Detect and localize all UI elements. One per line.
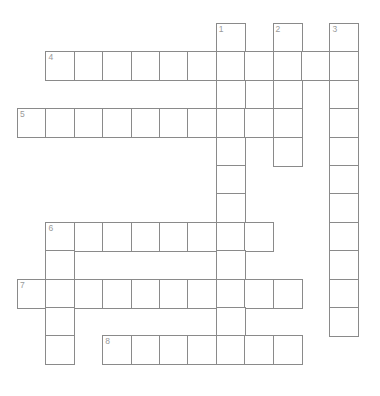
crossword-cell[interactable] [102, 279, 132, 309]
crossword-cell[interactable] [244, 335, 274, 365]
crossword-cell[interactable] [131, 335, 161, 365]
crossword-cell-numbered[interactable]: 6 [45, 222, 75, 252]
crossword-cell-numbered[interactable]: 1 [216, 23, 246, 53]
crossword-cell-numbered[interactable]: 7 [17, 279, 47, 309]
crossword-cell-numbered[interactable]: 2 [273, 23, 303, 53]
cell-number: 6 [48, 223, 53, 233]
crossword-cell[interactable] [74, 51, 104, 81]
crossword-cell[interactable] [329, 279, 359, 309]
crossword-cell[interactable] [187, 335, 217, 365]
cell-number: 4 [48, 52, 53, 62]
crossword-cell[interactable] [102, 51, 132, 81]
crossword-cell-numbered[interactable]: 5 [17, 108, 47, 138]
crossword-puzzle-grid: 12345678 [0, 0, 380, 396]
crossword-cell[interactable] [216, 137, 246, 167]
crossword-cell[interactable] [329, 80, 359, 110]
crossword-cell[interactable] [216, 165, 246, 195]
crossword-cell[interactable] [45, 279, 75, 309]
crossword-cell[interactable] [216, 335, 246, 365]
cell-number: 3 [332, 24, 337, 34]
crossword-cell[interactable] [216, 222, 246, 252]
crossword-cell[interactable] [74, 279, 104, 309]
crossword-cell[interactable] [244, 222, 274, 252]
cell-number: 7 [20, 280, 25, 290]
crossword-cell[interactable] [74, 222, 104, 252]
crossword-cell[interactable] [244, 108, 274, 138]
crossword-cell[interactable] [216, 51, 246, 81]
crossword-cell[interactable] [159, 108, 189, 138]
crossword-cell[interactable] [159, 51, 189, 81]
crossword-cell[interactable] [45, 335, 75, 365]
crossword-cell[interactable] [329, 137, 359, 167]
crossword-cell[interactable] [187, 222, 217, 252]
crossword-cell[interactable] [216, 108, 246, 138]
crossword-cell-numbered[interactable]: 4 [45, 51, 75, 81]
crossword-cell[interactable] [329, 108, 359, 138]
crossword-cell[interactable] [45, 250, 75, 280]
crossword-cell[interactable] [329, 165, 359, 195]
crossword-cell[interactable] [273, 51, 303, 81]
crossword-cell[interactable] [159, 222, 189, 252]
crossword-cell[interactable] [131, 51, 161, 81]
crossword-cell[interactable] [329, 51, 359, 81]
crossword-cell[interactable] [329, 307, 359, 337]
crossword-cell[interactable] [187, 108, 217, 138]
crossword-cell[interactable] [74, 108, 104, 138]
crossword-cell[interactable] [244, 51, 274, 81]
crossword-cell[interactable] [273, 137, 303, 167]
crossword-cell[interactable] [329, 250, 359, 280]
crossword-cell[interactable] [131, 222, 161, 252]
cell-number: 5 [20, 109, 25, 119]
crossword-cell[interactable] [187, 51, 217, 81]
cell-number: 1 [219, 24, 224, 34]
crossword-cell[interactable] [187, 279, 217, 309]
crossword-cell[interactable] [131, 279, 161, 309]
crossword-cell[interactable] [102, 222, 132, 252]
crossword-cell[interactable] [131, 108, 161, 138]
crossword-cell[interactable] [273, 279, 303, 309]
crossword-cell[interactable] [301, 51, 331, 81]
crossword-cell[interactable] [216, 80, 246, 110]
crossword-cell[interactable] [216, 193, 246, 223]
cell-number: 2 [276, 24, 281, 34]
crossword-cell[interactable] [159, 335, 189, 365]
crossword-cell[interactable] [329, 222, 359, 252]
crossword-cell[interactable] [102, 108, 132, 138]
crossword-cell[interactable] [216, 250, 246, 280]
cell-number: 8 [105, 336, 110, 346]
crossword-cell[interactable] [273, 335, 303, 365]
crossword-cell[interactable] [216, 279, 246, 309]
crossword-cell[interactable] [45, 307, 75, 337]
crossword-cell[interactable] [159, 279, 189, 309]
crossword-cell[interactable] [45, 108, 75, 138]
crossword-cell[interactable] [329, 193, 359, 223]
crossword-cell[interactable] [216, 307, 246, 337]
crossword-cell-numbered[interactable]: 8 [102, 335, 132, 365]
crossword-cell[interactable] [244, 279, 274, 309]
crossword-cell-numbered[interactable]: 3 [329, 23, 359, 53]
crossword-cell[interactable] [273, 108, 303, 138]
crossword-cell[interactable] [273, 80, 303, 110]
